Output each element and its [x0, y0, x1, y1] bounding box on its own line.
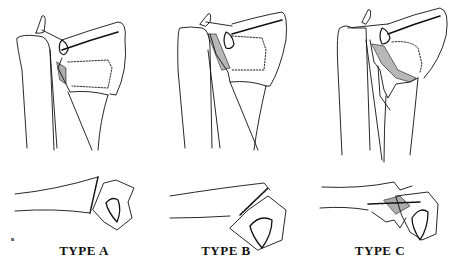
fracture-illustration — [0, 0, 454, 268]
label-type-a: TYPE A — [34, 243, 134, 259]
type-a-frontal-view — [17, 16, 126, 150]
label-type-b: TYPE B — [176, 243, 276, 259]
type-c-frontal-view — [337, 8, 447, 162]
label-type-c: TYPE C — [330, 243, 430, 259]
type-b-lateral-view — [170, 183, 286, 250]
type-b-frontal-view — [178, 12, 287, 150]
type-c-lateral-view — [320, 182, 438, 240]
illustrator-signature: ʙ — [11, 236, 14, 242]
type-a-lateral-view — [15, 177, 134, 230]
